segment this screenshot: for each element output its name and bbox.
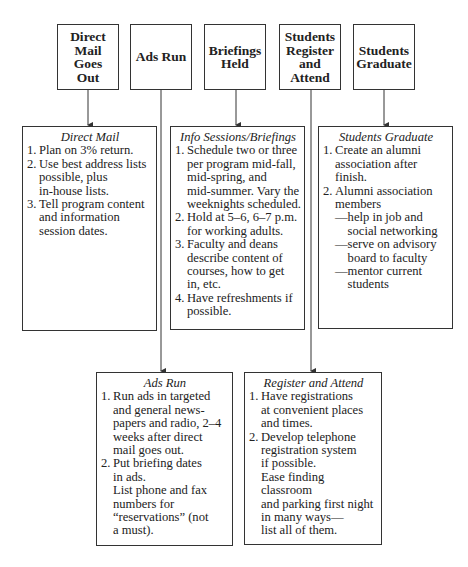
detail-title: Info Sessions/Briefings <box>175 131 301 144</box>
stage-label: Students Graduate <box>356 44 412 71</box>
detail-title: Ads Run <box>101 377 229 390</box>
list-item: 3.Tell program content and information s… <box>27 198 153 238</box>
list-item: 2.Put briefing dates in ads. <box>101 457 229 484</box>
stage-direct-mail: Direct Mail Goes Out <box>57 24 119 90</box>
stage-ads-run: Ads Run <box>130 24 192 90</box>
detail-title: Register and Attend <box>249 377 378 390</box>
note-text: List phone and fax numbers for “reservat… <box>101 484 229 538</box>
list-item: 1.Have registrations at convenient place… <box>249 390 378 430</box>
detail-register-attend: Register and Attend 1.Have registrations… <box>244 372 382 545</box>
detail-info-sessions: Info Sessions/Briefings 1.Schedule two o… <box>170 126 305 330</box>
list-item: 1.Run ads in targeted and general news- … <box>101 390 229 457</box>
stage-label: Direct Mail Goes Out <box>70 30 106 84</box>
list-item: 3.Faculty and deans describe content of … <box>175 238 301 292</box>
list-item: 1.Plan on 3% return. <box>27 144 153 157</box>
stage-students-graduate: Students Graduate <box>353 24 415 90</box>
detail-ads-run: Ads Run 1.Run ads in targeted and genera… <box>96 372 233 546</box>
sub-item: —help in job and social networking <box>323 211 449 238</box>
stage-label: Students Register and Attend <box>285 30 335 84</box>
list-item: 2.Alumni association members <box>323 185 449 212</box>
list-item: 1.Schedule two or three per program mid-… <box>175 144 301 211</box>
stage-students-register: Students Register and Attend <box>279 24 341 90</box>
stage-briefings-held: Briefings Held <box>204 24 266 90</box>
list-item: 2.Develop telephone registration system … <box>249 431 378 471</box>
list-item: 2.Hold at 5–6, 6–7 p.m. for working adul… <box>175 211 301 238</box>
detail-students-graduate: Students Graduate 1.Create an alumni ass… <box>318 126 453 329</box>
sub-item: —serve on advisory board to faculty <box>323 238 449 265</box>
detail-direct-mail: Direct Mail 1.Plan on 3% return. 2.Use b… <box>22 126 157 331</box>
list-item: 2.Use best address lists possible, plus … <box>27 158 153 198</box>
stage-label: Briefings Held <box>209 44 262 71</box>
list-item: 4.Have refreshments if possible. <box>175 292 301 319</box>
sub-item: —mentor current students <box>323 265 449 292</box>
list-item: 1.Create an alumni association after fin… <box>323 144 449 184</box>
detail-title: Students Graduate <box>323 131 449 144</box>
detail-title: Direct Mail <box>27 131 153 144</box>
stage-label: Ads Run <box>136 50 187 64</box>
note-text: Ease finding classroom and parking first… <box>249 471 378 538</box>
